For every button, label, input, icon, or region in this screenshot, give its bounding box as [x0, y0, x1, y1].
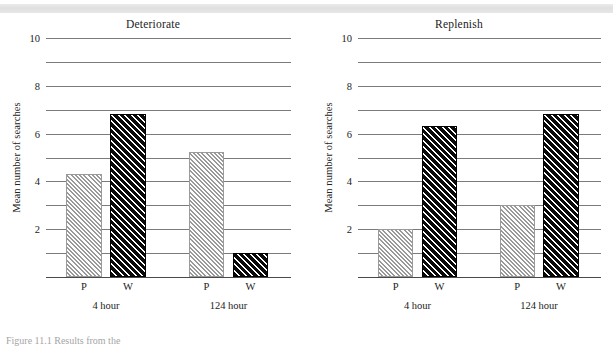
y-tick-label-8: 8 — [347, 80, 352, 91]
x-tick-label-3-W: W — [556, 281, 566, 292]
y-axis-label-left-text: Mean number of searches — [11, 102, 22, 212]
x-tick-label-1-W: W — [434, 281, 444, 292]
bar-deteriorate-124hour-P — [189, 152, 225, 277]
scan-artifact-band — [0, 4, 613, 13]
y-tick-label-4: 4 — [35, 176, 40, 187]
group-label-124-hour: 124 hour — [210, 300, 248, 311]
bar-deteriorate-4hour-P — [66, 174, 102, 277]
bar-replenish-124hour-W — [543, 114, 578, 277]
chart-title-replenish: Replenish — [306, 18, 612, 30]
chart-title-deteriorate: Deteriorate — [0, 18, 306, 30]
y-tick-label-2: 2 — [347, 224, 352, 235]
y-axis-label-right: Mean number of searches — [320, 38, 336, 277]
plot-area-deteriorate: 246810 — [46, 38, 291, 277]
x-tick-label-2-P: P — [514, 281, 520, 292]
bar-replenish-4hour-W — [422, 126, 457, 277]
bar-deteriorate-4hour-W — [110, 114, 146, 277]
x-tick-label-0-P: P — [393, 281, 399, 292]
x-tick-label-1-W: W — [123, 281, 133, 292]
y-tick-label-4: 4 — [347, 176, 352, 187]
bar-deteriorate-124hour-W — [233, 253, 269, 277]
y-tick-label-2: 2 — [35, 224, 40, 235]
group-label-4-hour: 4 hour — [92, 300, 119, 311]
chart-panel-deteriorate: Deteriorate Mean number of searches 2468… — [0, 18, 306, 328]
x-tick-label-3-W: W — [246, 281, 256, 292]
chart-panel-replenish: Replenish Mean number of searches 246810… — [306, 18, 612, 328]
gridline-0 — [46, 277, 291, 278]
x-tick-label-0-P: P — [81, 281, 87, 292]
bars-replenish — [358, 38, 601, 277]
gridline-0 — [358, 277, 601, 278]
bar-replenish-4hour-P — [378, 229, 413, 277]
y-tick-label-6: 6 — [347, 128, 352, 139]
y-axis-label-right-text: Mean number of searches — [323, 102, 334, 212]
x-axis-labels-left: PWPW4 hour124 hour — [46, 281, 291, 321]
bars-deteriorate — [46, 38, 291, 277]
y-tick-label-10: 10 — [342, 33, 353, 44]
group-label-4-hour: 4 hour — [404, 300, 431, 311]
bar-replenish-124hour-P — [500, 205, 535, 277]
y-axis-label-left: Mean number of searches — [8, 38, 24, 277]
x-axis-labels-right: PWPW4 hour124 hour — [358, 281, 601, 321]
y-tick-label-8: 8 — [35, 80, 40, 91]
y-tick-label-6: 6 — [35, 128, 40, 139]
y-tick-label-10: 10 — [30, 33, 41, 44]
group-label-124-hour: 124 hour — [520, 300, 558, 311]
figure-caption: Figure 11.1 Results from the — [6, 335, 606, 346]
plot-area-replenish: 246810 — [358, 38, 601, 277]
x-tick-label-2-P: P — [204, 281, 210, 292]
chart-panels: Deteriorate Mean number of searches 2468… — [0, 18, 613, 328]
